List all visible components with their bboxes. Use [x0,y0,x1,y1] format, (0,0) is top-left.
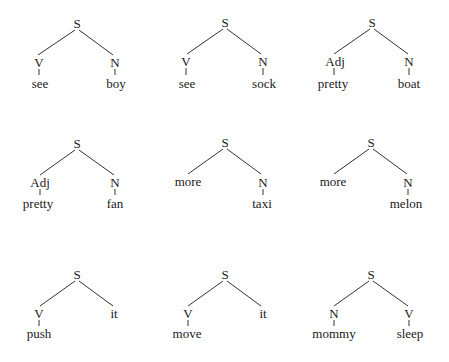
root-node: S [368,16,375,29]
left-node: V [34,56,43,69]
right-node: V [404,307,413,320]
left-node: V [181,55,190,68]
left-node: more [320,175,347,188]
right-word: boy [106,77,126,90]
right-node: N [110,56,119,69]
root-node: S [221,16,228,29]
left-word: move [173,327,202,340]
right-word: melon [390,197,423,210]
left-word: mommy [312,327,355,340]
left-word: see [32,77,49,90]
right-node: N [403,176,412,189]
right-node: N [258,55,267,68]
right-word: fan [107,197,124,210]
root-node: S [73,137,80,150]
left-word: push [27,327,52,340]
root-node: S [367,136,374,149]
root-node: S [73,17,80,30]
root-node: S [221,136,228,149]
tree-diagram-grid: S V see N boy S V see N sock S Adj prett… [0,0,449,362]
left-word: see [179,77,196,90]
left-node: V [183,307,192,320]
right-node: it [110,307,117,320]
left-node: more [175,175,202,188]
left-word: pretty [23,197,53,210]
left-node: Adj [325,55,345,68]
root-node: S [73,268,80,281]
right-word: sleep [397,327,424,340]
right-node: it [259,307,266,320]
left-node: V [34,307,43,320]
right-word: taxi [252,197,272,210]
right-node: N [404,55,413,68]
right-word: sock [252,77,276,90]
right-node: N [258,176,267,189]
left-node: Adj [30,176,50,189]
root-node: S [221,268,228,281]
left-word: pretty [318,77,348,90]
root-node: S [367,268,374,281]
tree-branches [0,0,449,362]
left-node: N [329,307,338,320]
right-word: boat [398,77,420,90]
right-node: N [110,176,119,189]
